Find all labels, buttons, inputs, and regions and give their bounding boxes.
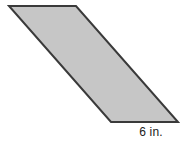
figure-canvas: 6 in.: [0, 0, 186, 145]
parallelogram-diagram: [0, 0, 186, 145]
dimension-label-bottom: 6 in.: [118, 125, 184, 139]
parallelogram-shape: [9, 6, 178, 122]
